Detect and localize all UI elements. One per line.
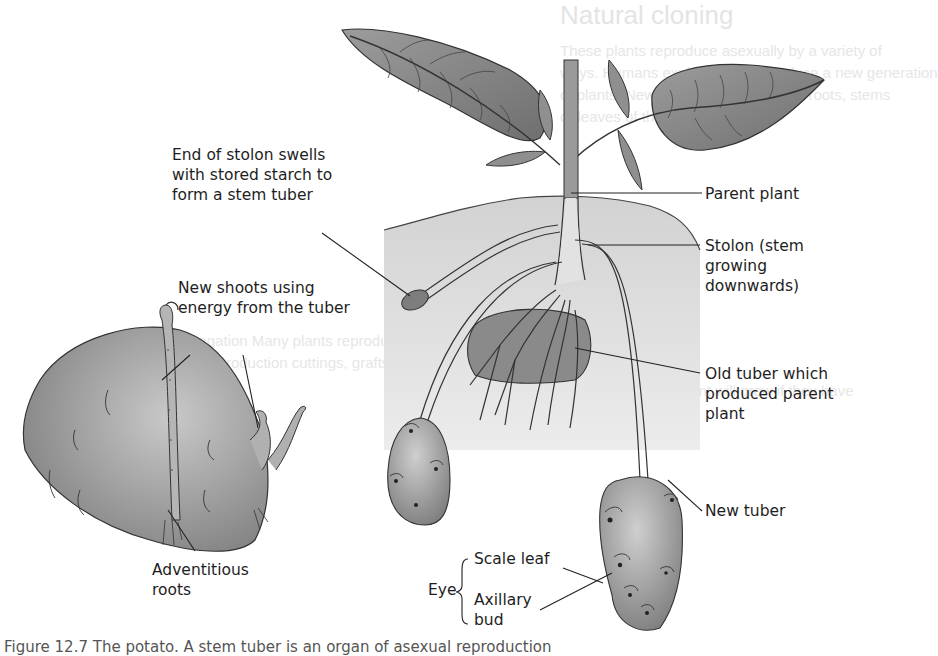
label-axillary-bud: Axillary bud: [474, 590, 532, 630]
eye-brace: [456, 559, 468, 624]
label-adventitious-roots: Adventitious roots: [152, 560, 249, 600]
main-stem: [555, 60, 585, 285]
label-scale-leaf: Scale leaf: [474, 549, 549, 569]
label-stolon-end: End of stolon swells with stored starch …: [172, 145, 332, 205]
figure-caption: Figure 12.7 The potato. A stem tuber is …: [4, 638, 552, 656]
label-parent-plant: Parent plant: [705, 184, 799, 204]
new-tuber-left: [388, 418, 450, 525]
sprouting-potato: [23, 302, 305, 551]
label-new-tuber: New tuber: [705, 501, 785, 521]
new-tuber-right: [600, 477, 683, 630]
label-old-tuber: Old tuber which produced parent plant: [705, 364, 834, 424]
label-stolon: Stolon (stem growing downwards): [705, 236, 804, 296]
label-eye: Eye: [428, 580, 457, 600]
left-leaf: [342, 29, 560, 165]
label-new-shoots: New shoots using energy from the tuber: [178, 278, 350, 318]
